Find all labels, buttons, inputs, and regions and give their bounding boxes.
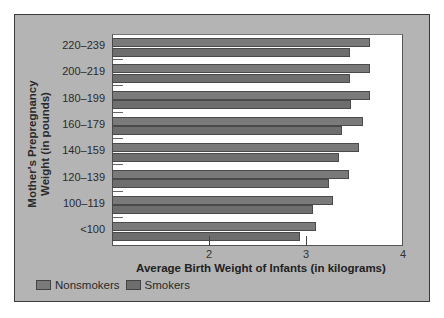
bar-smokers [112,126,342,135]
bar-smokers [112,74,350,83]
group-separator-tick [113,191,123,192]
legend-label-nonsmokers: Nonsmokers [55,279,120,291]
y-axis-label: Mother's Prepregnancy Weight (in pounds) [26,38,66,250]
legend-item-smokers: Smokers [126,279,190,291]
bar-nonsmokers [112,64,370,73]
group-separator-tick [113,59,123,60]
legend: Nonsmokers Smokers [36,279,196,291]
bar-nonsmokers [112,38,370,47]
group-separator-tick [113,85,123,86]
x-axis-label: Average Birth Weight of Infants (in kilo… [136,262,386,274]
group-separator-tick [113,217,123,218]
category-label: 220–239 [62,39,105,51]
bar-nonsmokers [112,143,359,152]
bar-smokers [112,205,313,214]
bar-smokers [112,48,350,57]
category-label: 140–159 [62,144,105,156]
category-label: 160–179 [62,118,105,130]
legend-item-nonsmokers: Nonsmokers [36,279,120,291]
category-label: 180–199 [62,92,105,104]
x-tick-mark-3 [306,236,307,246]
y-axis-label-line2: Weight (in pounds) [39,38,52,250]
category-label: 100–119 [63,197,105,209]
category-label: 200–219 [62,65,105,77]
bar-nonsmokers [112,196,333,205]
legend-swatch-smokers [126,280,141,290]
bar-smokers [112,153,339,162]
bar-nonsmokers [112,91,370,100]
bar-smokers [112,100,351,109]
legend-label-smokers: Smokers [145,279,190,291]
category-label: <100 [80,223,105,235]
x-tick-label-4: 4 [400,248,406,260]
bar-smokers [112,179,329,188]
bar-nonsmokers [112,117,363,126]
bar-nonsmokers [112,222,316,231]
x-tick-label-3: 3 [303,248,309,260]
x-tick-label-2: 2 [206,248,212,260]
group-separator-tick [113,112,123,113]
bar-smokers [112,232,300,241]
legend-swatch-nonsmokers [36,280,51,290]
group-separator-tick [113,138,123,139]
bar-nonsmokers [112,170,349,179]
y-axis-label-line1: Mother's Prepregnancy [26,38,39,250]
category-label: 120–139 [62,171,105,183]
x-tick-mark-2 [209,236,210,246]
group-separator-tick [113,164,123,165]
